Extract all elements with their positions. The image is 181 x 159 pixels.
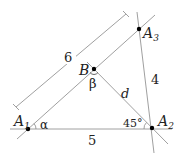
point-b [92,67,96,71]
label-b: B [78,62,89,78]
angle-label-beta: β [89,76,97,91]
label-a2: A2 [156,113,174,131]
point-a2 [150,126,154,130]
length-label-4: 4 [151,72,159,87]
geometry-diagram: A1 A2 A3 B 6 5 4 d α β 45° [0,0,181,159]
angle-label-alpha: α [40,118,48,132]
angle-arc-alpha [34,124,36,130]
angle-arc-45 [144,123,147,130]
length-label-d: d [121,86,129,101]
length-label-5: 5 [88,133,96,148]
label-a3: A3 [141,25,159,43]
point-a3 [137,27,141,31]
angle-label-45: 45° [123,117,143,130]
length-label-6: 6 [64,50,72,65]
label-a1: A1 [12,113,30,131]
